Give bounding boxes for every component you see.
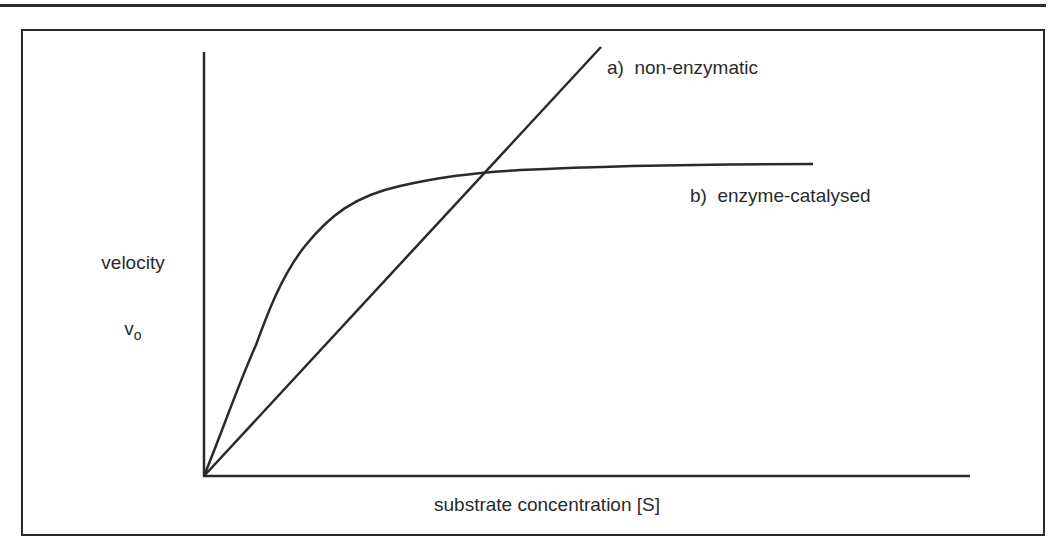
y-axis-label-text: velocity (83, 252, 183, 274)
series-a-non-enzymatic-line (204, 47, 601, 476)
series-b-label: b) enzyme-catalysed (690, 185, 871, 207)
y-axis-symbol: vo (83, 318, 183, 346)
y-axis-symbol-v: v (124, 318, 134, 339)
x-axis-label: substrate concentration [S] (434, 494, 660, 516)
y-axis-label: velocity vo (83, 208, 183, 368)
y-axis-symbol-subscript: o (134, 327, 142, 343)
series-a-label: a) non-enzymatic (607, 57, 758, 79)
series-b-enzyme-catalysed-curve (204, 164, 813, 476)
